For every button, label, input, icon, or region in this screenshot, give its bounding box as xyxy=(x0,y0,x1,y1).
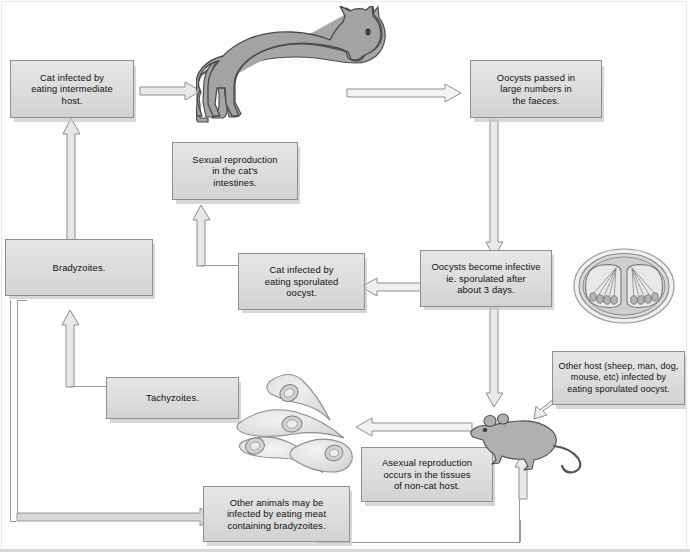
box-line: eating sporulated xyxy=(265,276,339,287)
box-line: occurs in the tissues xyxy=(383,469,470,480)
line-left-spine-foot xyxy=(10,521,16,522)
arrow-tachyzoites-to-bradyzoites xyxy=(62,310,80,388)
arrow-cat-infected-to-cat xyxy=(140,82,202,100)
box-line: infected by eating meat xyxy=(227,508,326,519)
bottom-rule xyxy=(0,549,690,552)
box-line: Cat infected by xyxy=(40,72,104,83)
box-line: of non-cat host. xyxy=(394,480,460,491)
box-line: eating intermediate xyxy=(31,83,113,94)
box-line: about 3 days. xyxy=(457,284,515,295)
box-line: Oocysts passed in xyxy=(497,72,575,83)
mouse-icon xyxy=(466,404,588,476)
arrow-bradyzoites-to-cat-infected xyxy=(63,118,81,250)
box-line: in the cat's xyxy=(212,165,258,176)
box-line: host. xyxy=(62,95,83,106)
box-cat-infected-oocyst[interactable]: Cat infected by eating sporulated oocyst… xyxy=(238,253,365,310)
diagram-canvas: Cat infected by eating intermediate host… xyxy=(0,0,690,555)
box-other-animals[interactable]: Other animals may be infected by eating … xyxy=(203,486,350,542)
box-line: eating sporulated oocyst. xyxy=(567,384,670,394)
arrow-oocysts-passed-to-infective xyxy=(486,120,504,258)
cat-eye xyxy=(365,29,370,36)
arrow-oocyst-to-sexual-reproduction xyxy=(193,205,211,267)
box-line: Cat infected by xyxy=(269,264,333,275)
box-line: Asexual reproduction xyxy=(382,457,472,468)
box-line: oocyst. xyxy=(286,287,316,298)
mouse-tail xyxy=(554,446,580,472)
box-line: Other animals may be xyxy=(230,497,324,508)
arrow-mouse-to-tachyzoites xyxy=(355,418,472,436)
line-left-spine-outer xyxy=(10,300,11,522)
box-line: large numbers in xyxy=(500,83,571,94)
box-sexual-reproduction[interactable]: Sexual reproduction in the cat's intesti… xyxy=(172,142,298,200)
box-line: Other host (sheep, man, dog, xyxy=(559,361,679,371)
box-line: the faeces. xyxy=(513,95,560,106)
cat-icon xyxy=(196,6,401,124)
arrow-infective-to-mouse xyxy=(486,308,504,408)
arrow-to-other-animals xyxy=(17,508,217,526)
line-asexual-riser xyxy=(519,499,520,543)
box-line: ie. sporulated after xyxy=(446,273,526,284)
box-other-host[interactable]: Other host (sheep, man, dog, mouse, etc)… xyxy=(552,351,685,405)
box-tachyzoites[interactable]: Tachyzoites. xyxy=(106,377,239,419)
tachyzoites-icon xyxy=(222,368,356,480)
mouse-eye xyxy=(483,428,488,432)
sporulated-oocyst-icon xyxy=(572,247,676,325)
box-bradyzoites[interactable]: Bradyzoites. xyxy=(5,239,153,296)
box-line: mouse, etc) infected by xyxy=(571,372,666,382)
box-line: Sexual reproduction xyxy=(192,154,277,165)
box-line: Oocysts become infective xyxy=(431,261,540,272)
box-cat-infected-intermediate[interactable]: Cat infected by eating intermediate host… xyxy=(10,60,134,118)
box-oocysts-infective[interactable]: Oocysts become infective ie. sporulated … xyxy=(420,250,552,307)
box-oocysts-passed[interactable]: Oocysts passed in large numbers in the f… xyxy=(470,60,602,118)
box-line: Bradyzoites. xyxy=(53,262,106,273)
line-left-spine-inner xyxy=(17,300,18,515)
box-line: intestines. xyxy=(213,177,256,188)
box-line: Tachyzoites. xyxy=(146,392,199,403)
line-bradyzoites-to-spine xyxy=(17,300,27,301)
box-line: containing bradyzoites. xyxy=(227,520,325,531)
